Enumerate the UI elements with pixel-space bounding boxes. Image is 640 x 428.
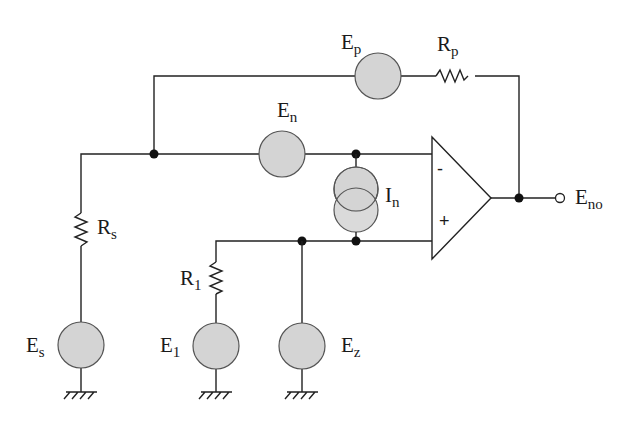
ground-icon bbox=[285, 392, 318, 399]
label-ez: Ez bbox=[341, 335, 361, 360]
ground-icon bbox=[199, 392, 232, 399]
opamp-icon bbox=[432, 137, 565, 259]
label-in: In bbox=[385, 185, 400, 210]
feedback-wire-right bbox=[475, 76, 519, 198]
ep-voltage-source-icon bbox=[355, 53, 401, 99]
ez-branch bbox=[279, 241, 325, 399]
junction-dot bbox=[150, 150, 159, 159]
label-rp: Rp bbox=[437, 34, 459, 59]
inverting-input-path bbox=[81, 131, 432, 213]
noninverting-symbol: + bbox=[439, 212, 450, 230]
output-terminal-icon bbox=[556, 194, 565, 203]
label-es: Es bbox=[26, 335, 45, 360]
in-current-source-icon bbox=[334, 154, 378, 241]
label-r1: R1 bbox=[180, 268, 202, 293]
label-en: En bbox=[277, 100, 297, 125]
circuit-diagram bbox=[0, 0, 640, 428]
r1-resistor-icon bbox=[210, 262, 222, 294]
e1-voltage-source-icon bbox=[193, 323, 239, 369]
label-eno: Eno bbox=[575, 187, 603, 212]
es-voltage-source-icon bbox=[58, 322, 104, 368]
ground-icon bbox=[64, 392, 97, 399]
in-lower-circle bbox=[334, 188, 378, 232]
rs-resistor-icon bbox=[75, 213, 87, 246]
feedback-wire-left bbox=[154, 76, 355, 154]
label-e1: E1 bbox=[160, 335, 180, 360]
noninverting-input-path bbox=[216, 237, 432, 263]
junction-dot bbox=[352, 237, 361, 246]
ez-voltage-source-icon bbox=[279, 323, 325, 369]
label-rs: Rs bbox=[97, 217, 117, 242]
label-ep: Ep bbox=[341, 32, 361, 57]
inverting-wire bbox=[81, 154, 432, 213]
output-junction-dot bbox=[515, 194, 524, 203]
en-voltage-source-icon bbox=[259, 131, 305, 177]
rp-resistor-icon bbox=[436, 70, 468, 82]
inverting-symbol: - bbox=[437, 160, 443, 178]
noninverting-wire bbox=[216, 241, 432, 262]
